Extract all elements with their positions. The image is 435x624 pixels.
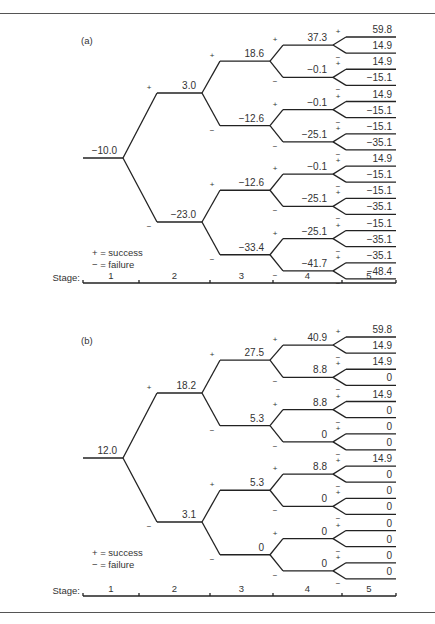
branch-success	[333, 369, 346, 377]
plus-sign: +	[273, 100, 278, 109]
node-value: 0	[321, 526, 327, 537]
branch-failure	[270, 126, 283, 142]
leaf-value: −15.1	[367, 185, 393, 196]
branch-success	[270, 410, 283, 426]
branch-success	[270, 474, 283, 490]
leaf-value: 0	[386, 372, 392, 383]
stage-number: 4	[305, 270, 310, 281]
node-value: −0.1	[307, 161, 327, 172]
stage-number: 2	[172, 583, 177, 594]
plus-sign: +	[273, 464, 278, 473]
plus-sign: +	[147, 383, 152, 392]
branch-failure	[333, 571, 346, 579]
node-value: −0.1	[307, 64, 327, 75]
branch-success	[270, 539, 283, 555]
plus-sign: +	[147, 83, 152, 92]
leaf-value: 14.9	[373, 356, 393, 367]
branch-success	[202, 360, 220, 393]
minus-sign: −	[273, 442, 278, 451]
stage-number: 5	[366, 583, 371, 594]
node-value: −25.1	[302, 193, 328, 204]
leaf-value: 0	[386, 421, 392, 432]
branch-failure	[333, 174, 346, 182]
legend-failure: − = failure	[92, 259, 134, 270]
node-value: 0	[321, 493, 327, 504]
stage-number: 4	[305, 583, 310, 594]
leaf-value: −15.1	[367, 121, 393, 132]
plus-sign: +	[336, 456, 341, 465]
branch-success	[333, 434, 346, 442]
branch-success	[202, 61, 220, 93]
node-value: 27.5	[245, 347, 265, 358]
branch-success	[333, 402, 346, 410]
stage-number: 2	[172, 270, 177, 281]
branch-failure	[270, 426, 283, 442]
minus-sign: −	[210, 426, 215, 435]
node-value: 0	[258, 542, 264, 553]
branch-failure	[333, 142, 346, 150]
leaf-value: 14.9	[373, 340, 393, 351]
branch-failure	[202, 222, 220, 255]
branch-failure	[270, 255, 283, 271]
plus-sign: +	[273, 400, 278, 409]
minus-sign: −	[273, 142, 278, 151]
node-value: 5.3	[250, 413, 264, 424]
plus-sign: +	[336, 359, 341, 368]
plus-sign: +	[336, 327, 341, 336]
node-value: 18.6	[245, 48, 265, 59]
plus-sign: +	[273, 529, 278, 538]
branch-success	[202, 490, 220, 522]
branch-failure	[333, 239, 346, 247]
branch-failure	[333, 474, 346, 482]
leaf-value: 0	[386, 405, 392, 416]
stage-number: 3	[239, 270, 244, 281]
plus-sign: +	[336, 553, 341, 562]
branch-failure	[333, 506, 346, 514]
legend-success: + = success	[92, 247, 143, 258]
leaf-value: 14.9	[373, 389, 393, 400]
branch-success	[270, 345, 283, 360]
minus-sign: −	[273, 571, 278, 580]
node-value: 8.8	[313, 397, 327, 408]
branch-failure	[270, 555, 283, 571]
plus-sign: +	[336, 59, 341, 68]
node-value: 8.8	[313, 461, 327, 472]
branch-failure	[270, 61, 283, 77]
minus-sign: −	[273, 77, 278, 86]
plus-sign: +	[336, 124, 341, 133]
branch-failure	[333, 442, 346, 450]
node-value: −12.6	[239, 113, 265, 124]
node-value: −33.4	[239, 242, 265, 253]
branch-failure	[123, 458, 157, 522]
node-value: −10.0	[92, 145, 118, 156]
leaf-value: −35.1	[367, 250, 393, 261]
node-value: −25.1	[302, 226, 328, 237]
branch-success	[333, 102, 346, 110]
plus-sign: +	[273, 229, 278, 238]
legend-success: + = success	[92, 547, 143, 558]
branch-failure	[270, 190, 283, 206]
branch-success	[270, 239, 283, 255]
plus-sign: +	[336, 221, 341, 230]
plus-sign: +	[336, 392, 341, 401]
plus-sign: +	[273, 335, 278, 344]
branch-success	[333, 337, 346, 345]
branch-success	[333, 134, 346, 142]
node-value: −12.6	[239, 177, 265, 188]
branch-failure	[202, 393, 220, 426]
node-value: −0.1	[307, 97, 327, 108]
branch-failure	[202, 93, 220, 126]
branch-failure	[123, 158, 157, 222]
plus-sign: +	[336, 92, 341, 101]
leaf-value: 0	[386, 566, 392, 577]
leaf-value: −35.1	[367, 234, 393, 245]
legend-failure: − = failure	[92, 559, 134, 570]
branch-failure	[333, 271, 346, 279]
leaf-value: 0	[386, 518, 392, 529]
leaf-value: −15.1	[367, 105, 393, 116]
minus-sign: −	[273, 506, 278, 515]
minus-sign: −	[210, 126, 215, 135]
minus-sign: −	[273, 377, 278, 386]
branch-failure	[333, 206, 346, 214]
leaf-value: 14.9	[373, 56, 393, 67]
